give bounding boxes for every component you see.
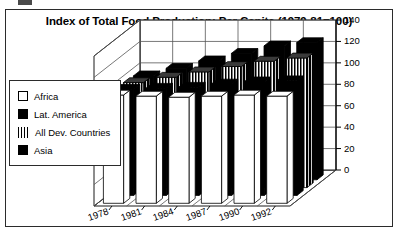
y-axis-tick-label: 40 xyxy=(344,121,355,132)
legend-label-lat-america: Lat. America xyxy=(34,109,87,120)
legend-item-all-dev-countries: All Dev. Countries xyxy=(10,123,120,141)
legend-label-africa: Africa xyxy=(34,91,58,102)
chart-legend: Africa Lat. America All Dev. Countries A… xyxy=(9,80,121,166)
legend-swatch-africa xyxy=(18,91,28,101)
y-axis-tick-label: 140 xyxy=(344,14,360,25)
legend-item-asia: Asia xyxy=(10,141,120,159)
y-axis-tick-label: 20 xyxy=(344,143,355,154)
scan-artifact xyxy=(18,0,32,5)
legend-swatch-lat-america xyxy=(18,109,28,119)
legend-swatch-all-dev-countries xyxy=(18,127,29,138)
legend-label-all-dev-countries: All Dev. Countries xyxy=(35,127,110,138)
y-axis-tick-label: 100 xyxy=(344,57,360,68)
y-axis-tick-label: 0 xyxy=(344,164,349,175)
y-axis-tick-label: 60 xyxy=(344,100,355,111)
legend-item-lat-america: Lat. America xyxy=(10,105,120,123)
legend-item-africa: Africa xyxy=(10,87,120,105)
y-axis-tick-label: 80 xyxy=(344,78,355,89)
y-axis-tick-label: 120 xyxy=(344,35,360,46)
legend-label-asia: Asia xyxy=(34,145,52,156)
legend-swatch-asia xyxy=(18,145,28,155)
chart-frame: Index of Total Food Production: Per Capi… xyxy=(5,9,393,227)
